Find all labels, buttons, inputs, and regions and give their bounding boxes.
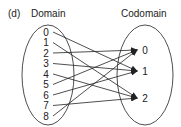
domain-elements: 012345678 bbox=[43, 27, 49, 122]
arrow-8-to-0 bbox=[53, 50, 137, 116]
codomain-element-0: 0 bbox=[142, 45, 148, 56]
arrow-7-to-2 bbox=[53, 98, 137, 106]
domain-element-5: 5 bbox=[43, 79, 49, 90]
mapping-arrows bbox=[53, 32, 137, 116]
domain-element-6: 6 bbox=[43, 90, 49, 101]
domain-element-2: 2 bbox=[43, 48, 49, 59]
codomain-element-1: 1 bbox=[142, 66, 148, 77]
function-mapping-diagram: 012345678 012 bbox=[0, 0, 181, 127]
domain-element-0: 0 bbox=[43, 27, 49, 38]
codomain-elements: 012 bbox=[142, 45, 148, 104]
domain-element-1: 1 bbox=[43, 37, 49, 48]
codomain-element-2: 2 bbox=[142, 93, 148, 104]
arrow-5-to-0 bbox=[53, 50, 137, 85]
domain-element-7: 7 bbox=[43, 100, 49, 111]
domain-element-4: 4 bbox=[43, 69, 49, 80]
arrow-4-to-2 bbox=[53, 74, 137, 98]
domain-element-8: 8 bbox=[43, 111, 49, 122]
domain-element-3: 3 bbox=[43, 58, 49, 69]
